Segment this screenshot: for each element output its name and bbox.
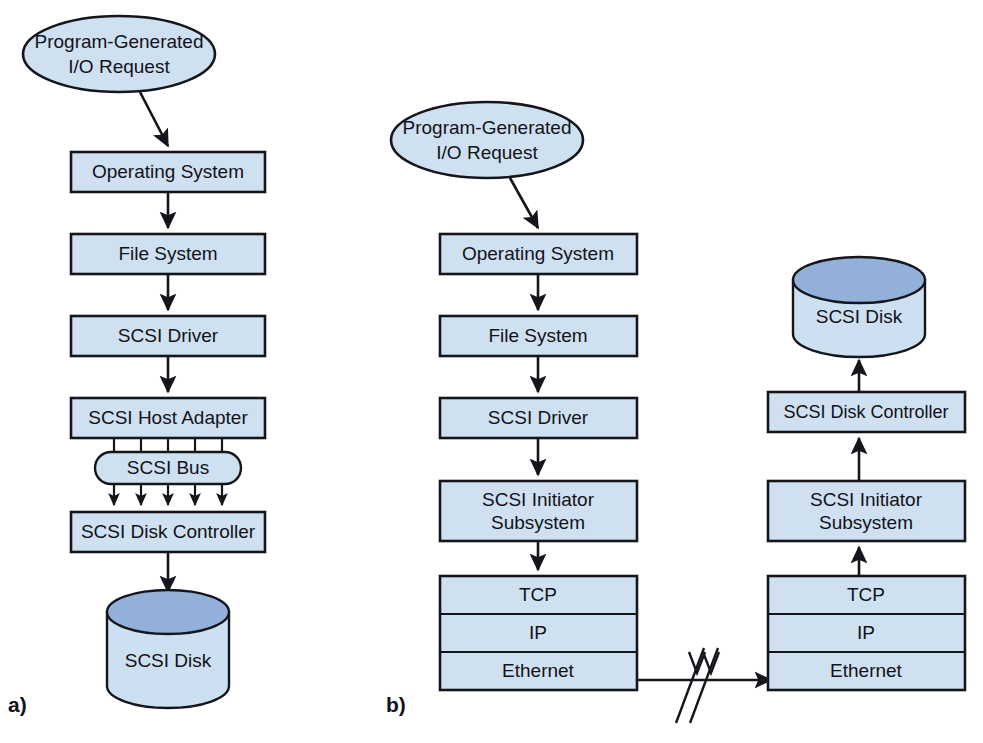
panel-a-scsi-disk: SCSI Disk (107, 590, 229, 708)
figure-canvas: Program-Generated I/O Request Operating … (0, 0, 983, 743)
box-label: SCSI Disk Controller (783, 402, 948, 422)
box-label-line2: Subsystem (491, 512, 585, 533)
panel-b-scsi-disk: SCSI Disk (793, 257, 925, 357)
box-label-line2: Subsystem (819, 512, 913, 533)
panel-label-a: a) (8, 693, 27, 716)
panel-b-box-file-system: File System (440, 316, 637, 356)
bus-label: SCSI Bus (127, 457, 209, 478)
box-label: Operating System (92, 161, 244, 182)
request-ellipse-line2: I/O Request (68, 56, 170, 77)
panel-a-scsi-bus: SCSI Bus (95, 452, 241, 484)
panel-b-box-scsi-driver: SCSI Driver (440, 398, 637, 438)
panel-a-box-scsi-driver: SCSI Driver (71, 316, 265, 356)
panel-b-box-scsi-disk-controller: SCSI Disk Controller (768, 392, 965, 432)
request-ellipse-shape (391, 102, 583, 178)
panel-a-request-ellipse: Program-Generated I/O Request (23, 16, 215, 92)
disk-label: SCSI Disk (125, 650, 212, 671)
request-ellipse-line1: Program-Generated (35, 31, 204, 52)
panel-b-arrow-request-to-os (510, 178, 538, 228)
panel-a-bus-connectors-bottom (114, 484, 222, 505)
panel-b-box-operating-system: Operating System (440, 234, 637, 274)
scsi-iscsi-architecture-diagram: Program-Generated I/O Request Operating … (0, 0, 983, 743)
panel-a-box-file-system: File System (71, 234, 265, 274)
request-ellipse-line1: Program-Generated (403, 117, 572, 138)
panel-b-target-side: SCSI Disk SCSI Disk Controller SCSI Init… (768, 257, 965, 690)
stack-label-ethernet: Ethernet (502, 660, 575, 681)
panel-b-network-stack-initiator: TCP IP Ethernet (440, 576, 637, 690)
panel-a-box-operating-system: Operating System (71, 152, 265, 192)
stack-label-tcp: TCP (847, 584, 885, 605)
panel-b-target-box-scsi-initiator-subsystem: SCSI Initiator Subsystem (768, 481, 965, 541)
stack-label-tcp: TCP (519, 584, 557, 605)
panel-a-box-scsi-host-adapter: SCSI Host Adapter (71, 398, 265, 438)
panel-b-box-scsi-initiator-subsystem: SCSI Initiator Subsystem (440, 481, 637, 541)
panel-b-network-stack-target: TCP IP Ethernet (768, 576, 965, 690)
request-ellipse-shape (23, 16, 215, 92)
box-label: SCSI Driver (488, 407, 589, 428)
panel-b-network-link (637, 648, 771, 723)
stack-label-ip: IP (529, 622, 547, 643)
panel-label-b: b) (386, 693, 406, 716)
stack-label-ip: IP (857, 622, 875, 643)
box-label: SCSI Disk Controller (81, 521, 256, 542)
box-label: SCSI Driver (118, 325, 219, 346)
panel-a-box-scsi-disk-controller: SCSI Disk Controller (71, 512, 265, 552)
panel-a: Program-Generated I/O Request Operating … (8, 16, 265, 716)
disk-top-shape (793, 257, 925, 303)
box-label: File System (118, 243, 217, 264)
panel-b-initiator-side: Program-Generated I/O Request Operating … (386, 102, 637, 716)
request-ellipse-line2: I/O Request (436, 142, 538, 163)
panel-b-request-ellipse: Program-Generated I/O Request (391, 102, 583, 178)
box-label-line1: SCSI Initiator (810, 489, 923, 510)
disk-label: SCSI Disk (816, 306, 903, 327)
network-break-icon (676, 648, 719, 723)
box-label: Operating System (462, 243, 614, 264)
box-label: SCSI Host Adapter (88, 407, 248, 428)
box-label-line1: SCSI Initiator (482, 489, 595, 510)
stack-label-ethernet: Ethernet (830, 660, 903, 681)
panel-a-arrow-request-to-os (140, 92, 168, 146)
box-label: File System (488, 325, 587, 346)
disk-top-shape (107, 590, 229, 634)
